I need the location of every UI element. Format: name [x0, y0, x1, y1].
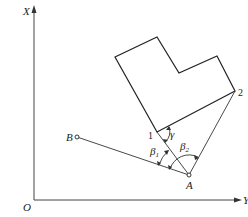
- x-axis-arrow-icon: [32, 5, 37, 13]
- point-b-marker: [75, 135, 79, 139]
- point-1-label: 1: [148, 130, 153, 141]
- x-axis-label: X: [22, 5, 31, 17]
- diagram-canvas: X Y O B A 1 2 γ β1 β2: [0, 0, 248, 217]
- line-b-to-a: [77, 137, 189, 175]
- beta1-label: β1: [149, 145, 159, 159]
- point-a-label: A: [185, 179, 193, 191]
- point-b-label: B: [66, 131, 73, 143]
- origin-label: O: [23, 201, 31, 213]
- y-axis-label: Y: [243, 194, 248, 206]
- beta2-label: β2: [179, 140, 189, 154]
- y-axis-arrow-icon: [234, 198, 242, 203]
- l-shaped-body: [115, 37, 235, 132]
- gamma-label: γ: [170, 128, 175, 140]
- coordinate-axes: [34, 10, 236, 200]
- point-a-marker: [187, 173, 191, 177]
- point-2-label: 2: [238, 87, 243, 98]
